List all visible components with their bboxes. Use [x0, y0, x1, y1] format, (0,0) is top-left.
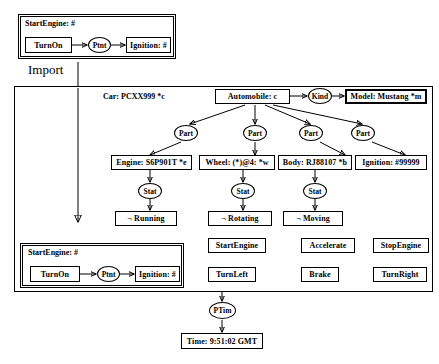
part-ellipse-2[interactable]: Part — [243, 125, 267, 141]
action-startengine[interactable]: StartEngine — [208, 238, 266, 253]
model-node[interactable]: Model: Mustang *m — [345, 89, 427, 104]
body-node[interactable]: Body: RJ88107 *b — [278, 155, 352, 170]
action-turnleft[interactable]: TurnLeft — [208, 267, 256, 282]
stat-ellipse-1[interactable]: Stat — [138, 183, 162, 199]
automobile-node[interactable]: Automobile: c — [215, 89, 290, 104]
top-module-ptnt-ellipse[interactable]: Ptnt — [88, 37, 111, 53]
ptim-ellipse[interactable]: PTim — [209, 302, 236, 319]
action-turnright[interactable]: TurnRight — [373, 267, 427, 282]
top-module-turnon-node[interactable]: TurnOn — [25, 37, 72, 53]
state-running-node[interactable]: ¬ Running — [115, 211, 177, 226]
state-moving-node[interactable]: ¬ Moving — [283, 211, 343, 226]
ignition-node[interactable]: Ignition: #99999 — [355, 155, 427, 170]
wheel-node[interactable]: Wheel: (*)@4: *w — [199, 155, 275, 170]
import-label: Import — [28, 62, 63, 78]
state-rotating-node[interactable]: ¬ Rotating — [208, 211, 272, 226]
inner-module-label: StartEngine: # — [28, 248, 78, 257]
action-brake[interactable]: Brake — [301, 267, 339, 282]
stat-ellipse-2[interactable]: Stat — [231, 183, 255, 199]
action-accelerate[interactable]: Accelerate — [301, 238, 355, 253]
top-module-label: StartEngine: # — [25, 19, 75, 28]
part-ellipse-3[interactable]: Part — [299, 125, 323, 141]
part-ellipse-1[interactable]: Part — [174, 125, 198, 141]
time-node[interactable]: Time: 9:51:02 GMT — [181, 333, 263, 349]
engine-node[interactable]: Engine: S6P901T *e — [111, 155, 192, 170]
top-module-ignition-node[interactable]: Ignition: # — [126, 37, 171, 53]
inner-module-ptnt-ellipse[interactable]: Ptnt — [97, 266, 120, 282]
inner-module-ignition-node[interactable]: Ignition: # — [135, 266, 180, 282]
inner-module-turnon-node[interactable]: TurnOn — [30, 266, 80, 282]
action-stopengine[interactable]: StopEngine — [373, 238, 429, 253]
stat-ellipse-3[interactable]: Stat — [303, 183, 327, 199]
car-text: Car: PCXX999 *c — [103, 92, 165, 101]
kind-ellipse[interactable]: Kind — [308, 88, 332, 104]
part-ellipse-4[interactable]: Part — [351, 125, 375, 141]
diagram-canvas: StartEngine: # TurnOn Ptnt Ignition: # I… — [0, 0, 439, 364]
